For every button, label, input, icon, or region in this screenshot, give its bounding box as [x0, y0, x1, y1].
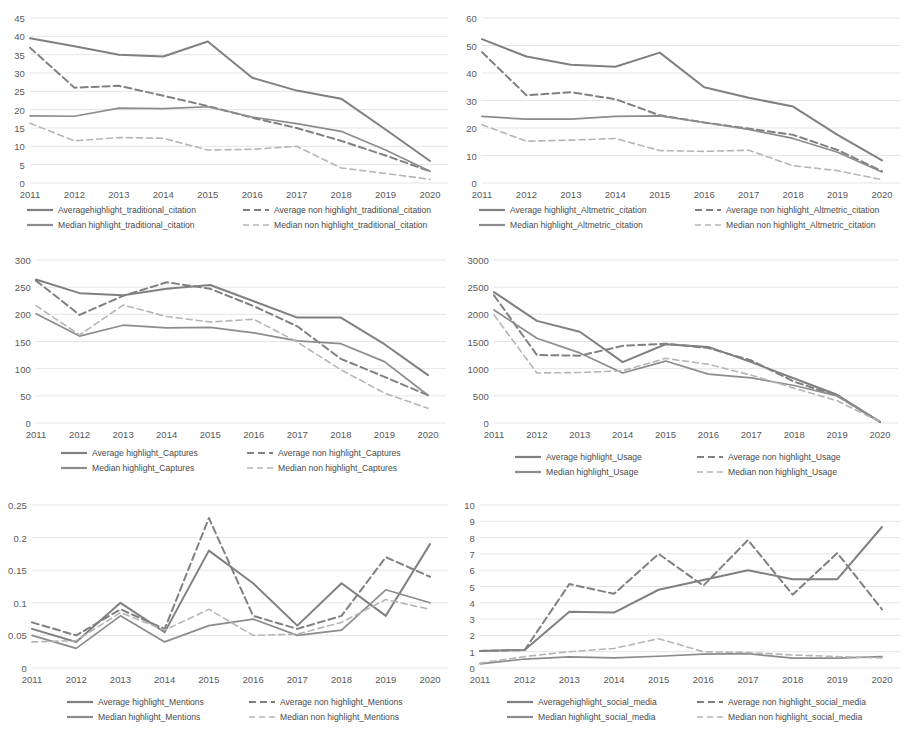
x-axis-tick-label: 2013 [108, 189, 129, 200]
x-axis-tick-label: 2019 [375, 674, 396, 685]
legend-item[interactable]: Average non highlight_traditional_citati… [242, 205, 451, 215]
legend-swatch-icon [506, 713, 534, 721]
x-axis: 2011201220132014201520162017201820192020 [0, 429, 452, 443]
x-axis-tick-label: 2020 [419, 674, 440, 685]
legend-item[interactable]: Average highlight_Altmetric_citation [478, 205, 690, 215]
x-axis-tick-label: 2013 [110, 674, 131, 685]
legend: Averagehighlight_traditional_citationAve… [26, 205, 451, 230]
legend-item[interactable]: Median non highlight_traditional_citatio… [242, 220, 451, 230]
legend-item[interactable]: Average non highlight_Altmetric_citation [694, 205, 903, 215]
legend-item[interactable]: Averagehighlight_social_media [506, 697, 692, 707]
legend-label: Averagehighlight_social_media [538, 697, 657, 707]
series-line [36, 314, 428, 395]
x-axis-tick-label: 2015 [200, 429, 221, 440]
x-axis-tick-label: 2016 [243, 429, 264, 440]
six-panel-chart-figure: 0510152025303540452011201220132014201520… [0, 0, 904, 742]
legend-item[interactable]: Median highlight_Altmetric_citation [478, 220, 690, 230]
legend-item[interactable]: Median highlight_traditional_citation [26, 220, 238, 230]
legend-item[interactable]: Median highlight_Captures [60, 463, 242, 473]
legend: Averagehighlight_social_mediaAverage non… [506, 697, 896, 722]
series-line [482, 39, 882, 160]
legend-item[interactable]: Averagehighlight_traditional_citation [26, 205, 238, 215]
legend-swatch-icon [478, 206, 506, 214]
panel-captures: 0501001502002503002011201220132014201520… [0, 252, 452, 495]
x-axis-tick-label: 2019 [375, 189, 396, 200]
legend-label: Median non highlight_traditional_citatio… [274, 220, 427, 230]
x-axis-tick-label: 2017 [286, 189, 307, 200]
x-axis-tick-label: 2015 [197, 189, 218, 200]
x-axis-tick-label: 2013 [113, 429, 134, 440]
legend-label: Average highlight_Mentions [98, 697, 204, 707]
legend-label: Average highlight_Captures [92, 448, 198, 458]
legend-label: Averagehighlight_traditional_citation [58, 205, 196, 215]
legend-label: Average highlight_Altmetric_citation [510, 205, 646, 215]
legend-swatch-icon [694, 206, 722, 214]
legend-swatch-icon [66, 698, 94, 706]
x-axis: 2011201220132014201520162017201820192020 [0, 674, 452, 688]
series-line [32, 590, 430, 649]
legend-label: Average non highlight_Usage [728, 452, 841, 462]
panel-traditional-citation: 0510152025303540452011201220132014201520… [0, 0, 452, 252]
legend-item[interactable]: Median highlight_Usage [514, 467, 692, 477]
series-line [480, 639, 882, 663]
legend-item[interactable]: Median non highlight_Mentions [248, 712, 444, 722]
x-axis-tick-label: 2016 [698, 429, 719, 440]
x-axis-tick-label: 2012 [514, 674, 535, 685]
legend-label: Average highlight_Usage [546, 452, 642, 462]
series-line [480, 527, 882, 651]
legend-label: Median non highlight_Mentions [280, 712, 399, 722]
x-axis-tick-label: 2017 [287, 429, 308, 440]
legend-swatch-icon [694, 221, 722, 229]
legend-item[interactable]: Median non highlight_Usage [696, 467, 896, 477]
legend-swatch-icon [60, 449, 88, 457]
legend-item[interactable]: Median highlight_social_media [506, 712, 692, 722]
x-axis-tick-label: 2020 [871, 189, 892, 200]
legend-item[interactable]: Median highlight_Mentions [66, 712, 244, 722]
x-axis-tick-label: 2014 [153, 189, 174, 200]
legend-label: Median non highlight_Captures [278, 463, 397, 473]
x-axis-tick-label: 2014 [605, 189, 626, 200]
x-axis-tick-label: 2012 [526, 429, 547, 440]
legend-swatch-icon [696, 468, 724, 476]
x-axis-tick-label: 2018 [783, 189, 804, 200]
x-axis-tick-label: 2020 [417, 429, 438, 440]
legend-item[interactable]: Average highlight_Mentions [66, 697, 244, 707]
legend-label: Median non highlight_social_media [728, 712, 862, 722]
legend-item[interactable]: Median non highlight_social_media [696, 712, 896, 722]
legend-label: Average non highlight_social_media [728, 697, 866, 707]
x-axis-tick-label: 2019 [374, 429, 395, 440]
legend-swatch-icon [696, 453, 724, 461]
x-axis-tick-label: 2012 [69, 429, 90, 440]
legend-item[interactable]: Average highlight_Usage [514, 452, 692, 462]
legend-item[interactable]: Average highlight_Captures [60, 448, 242, 458]
legend-label: Average non highlight_Captures [278, 448, 401, 458]
legend-swatch-icon [242, 221, 270, 229]
x-axis-tick-label: 2020 [419, 189, 440, 200]
legend-swatch-icon [696, 698, 724, 706]
legend-item[interactable]: Average non highlight_social_media [696, 697, 896, 707]
panel-mentions: 00.050.10.150.20.25201120122013201420152… [0, 495, 452, 742]
legend-item[interactable]: Median non highlight_Altmetric_citation [694, 220, 903, 230]
series-line [494, 292, 880, 422]
legend-item[interactable]: Median non highlight_Captures [246, 463, 445, 473]
legend-item[interactable]: Average non highlight_Mentions [248, 697, 444, 707]
legend-label: Median highlight_Altmetric_citation [510, 220, 643, 230]
legend-item[interactable]: Average non highlight_Captures [246, 448, 445, 458]
x-axis-tick-label: 2018 [784, 429, 805, 440]
x-axis-tick-label: 2012 [516, 189, 537, 200]
x-axis-tick-label: 2014 [156, 429, 177, 440]
x-axis-tick-label: 2015 [648, 674, 669, 685]
legend-swatch-icon [514, 468, 542, 476]
x-axis: 2011201220132014201520162017201820192020 [452, 429, 904, 443]
legend-item[interactable]: Average non highlight_Usage [696, 452, 896, 462]
x-axis-tick-label: 2011 [472, 189, 492, 200]
series-line [32, 544, 430, 642]
x-axis-tick-label: 2011 [20, 189, 40, 200]
legend-swatch-icon [26, 221, 54, 229]
x-axis-tick-label: 2016 [694, 189, 715, 200]
x-axis-tick-label: 2011 [26, 429, 46, 440]
x-axis-tick-label: 2014 [612, 429, 633, 440]
legend-label: Average non highlight_Mentions [280, 697, 403, 707]
legend-label: Median highlight_social_media [538, 712, 656, 722]
x-axis-tick-label: 2014 [603, 674, 624, 685]
